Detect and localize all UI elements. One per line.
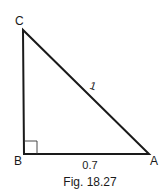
figure-caption: Fig. 18.27 [63,175,117,189]
triangle-abc [23,30,149,154]
base-length-label: 0.7 [82,159,97,171]
vertex-label-a: A [150,154,158,168]
right-angle-marker [24,141,37,154]
vertex-label-c: C [15,14,24,28]
triangle-diagram: C B A 1 0.7 Fig. 18.27 [0,0,168,196]
hypotenuse-label: 1 [89,79,99,92]
vertex-label-b: B [14,154,22,168]
